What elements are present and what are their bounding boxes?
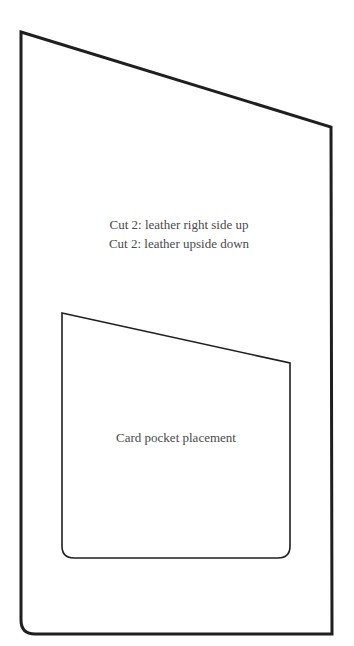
pattern-diagram bbox=[0, 0, 354, 646]
cut-instruction-right-side-up: Cut 2: leather right side up bbox=[2, 217, 354, 233]
cut-instruction-upside-down: Cut 2: leather upside down bbox=[2, 236, 354, 252]
outer-pattern-piece-outline bbox=[21, 32, 332, 634]
card-pocket-label: Card pocket placement bbox=[62, 430, 290, 446]
